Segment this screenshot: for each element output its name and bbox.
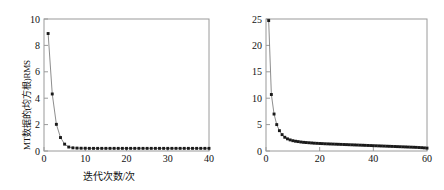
data-point-marker: [313, 142, 316, 145]
x-tick-label: 40: [204, 153, 214, 164]
data-point-marker: [270, 93, 273, 96]
data-point-marker: [412, 146, 415, 149]
data-point-marker: [278, 129, 281, 132]
data-point-marker: [183, 147, 186, 150]
chart-panel-seismic-rms: 05101520250204060 地震数据的(均方根)RMS 迭代次数/次: [222, 0, 444, 190]
x-tick-label: 10: [80, 153, 90, 164]
data-point-marker: [418, 146, 421, 149]
data-point-marker: [55, 123, 58, 126]
data-point-marker: [334, 143, 337, 146]
data-point-marker: [88, 147, 91, 150]
y-tick-label: 15: [252, 66, 262, 77]
data-point-marker: [96, 147, 99, 150]
data-point-marker: [175, 147, 178, 150]
data-point-marker: [332, 143, 335, 146]
data-point-marker: [340, 143, 343, 146]
data-point-marker: [350, 143, 353, 146]
data-point-marker: [372, 144, 375, 147]
data-point-marker: [67, 146, 70, 149]
y-tick-label: 10: [30, 14, 40, 25]
data-point-marker: [63, 143, 66, 146]
data-point-marker: [307, 141, 310, 144]
chart-panel-mt-rms: 0246810010203040 MT数据的(均方根)RMS 迭代次数/次: [0, 0, 222, 190]
y-tick-label: 4: [35, 93, 40, 104]
seismic-rms-plot: 05101520250204060: [222, 0, 444, 190]
data-point-marker: [326, 142, 329, 145]
series-line: [48, 34, 209, 149]
plot-frame: [266, 19, 427, 151]
data-point-marker: [117, 147, 120, 150]
data-point-marker: [361, 144, 364, 147]
data-point-marker: [399, 145, 402, 148]
x-tick-label: 20: [122, 153, 132, 164]
y-tick-label: 2: [35, 119, 40, 130]
data-point-marker: [318, 142, 321, 145]
data-point-marker: [133, 147, 136, 150]
data-point-marker: [396, 145, 399, 148]
data-point-marker: [356, 144, 359, 147]
data-point-marker: [342, 143, 345, 146]
x-tick-label: 20: [315, 153, 325, 164]
data-point-marker: [100, 147, 103, 150]
y-tick-label: 20: [252, 40, 262, 51]
data-point-marker: [316, 142, 319, 145]
data-point-marker: [310, 142, 313, 145]
mt-rms-plot: 0246810010203040: [0, 0, 222, 190]
data-point-marker: [76, 147, 79, 150]
data-point-marker: [80, 147, 83, 150]
data-point-marker: [137, 147, 140, 150]
data-point-marker: [179, 147, 182, 150]
data-point-marker: [407, 146, 410, 149]
data-point-marker: [305, 141, 308, 144]
data-point-marker: [364, 144, 367, 147]
data-point-marker: [299, 141, 302, 144]
data-point-marker: [321, 142, 324, 145]
data-point-marker: [302, 141, 305, 144]
data-point-marker: [380, 145, 383, 148]
data-point-marker: [423, 146, 426, 149]
data-point-marker: [324, 142, 327, 145]
data-point-marker: [150, 147, 153, 150]
x-tick-label: 60: [422, 153, 432, 164]
data-point-marker: [401, 145, 404, 148]
data-point-marker: [187, 147, 190, 150]
data-point-marker: [92, 147, 95, 150]
data-point-marker: [369, 144, 372, 147]
data-point-marker: [166, 147, 169, 150]
data-point-marker: [420, 146, 423, 149]
data-point-marker: [154, 147, 157, 150]
data-point-marker: [47, 32, 50, 35]
x-tick-label: 40: [368, 153, 378, 164]
data-point-marker: [146, 147, 149, 150]
data-point-marker: [289, 138, 292, 141]
data-point-marker: [59, 136, 62, 139]
data-point-marker: [113, 147, 116, 150]
y-tick-label: 25: [252, 14, 262, 25]
data-point-marker: [377, 144, 380, 147]
data-point-marker: [125, 147, 128, 150]
data-point-marker: [367, 144, 370, 147]
data-point-marker: [337, 143, 340, 146]
data-point-marker: [291, 139, 294, 142]
data-point-marker: [275, 123, 278, 126]
data-point-marker: [358, 144, 361, 147]
data-point-marker: [199, 147, 202, 150]
data-point-marker: [353, 143, 356, 146]
data-point-marker: [84, 147, 87, 150]
data-point-marker: [383, 145, 386, 148]
data-point-marker: [415, 146, 418, 149]
data-point-marker: [283, 136, 286, 139]
data-point-marker: [286, 137, 289, 140]
data-point-marker: [121, 147, 124, 150]
x-tick-label: 0: [264, 153, 269, 164]
y-tick-label: 0: [35, 146, 40, 157]
x-tick-label: 30: [163, 153, 173, 164]
data-point-marker: [129, 147, 132, 150]
data-point-marker: [109, 147, 112, 150]
series-line: [269, 21, 427, 149]
data-point-marker: [191, 147, 194, 150]
y-tick-label: 5: [257, 119, 262, 130]
data-point-marker: [329, 143, 332, 146]
data-point-marker: [409, 146, 412, 149]
data-point-marker: [208, 147, 211, 150]
